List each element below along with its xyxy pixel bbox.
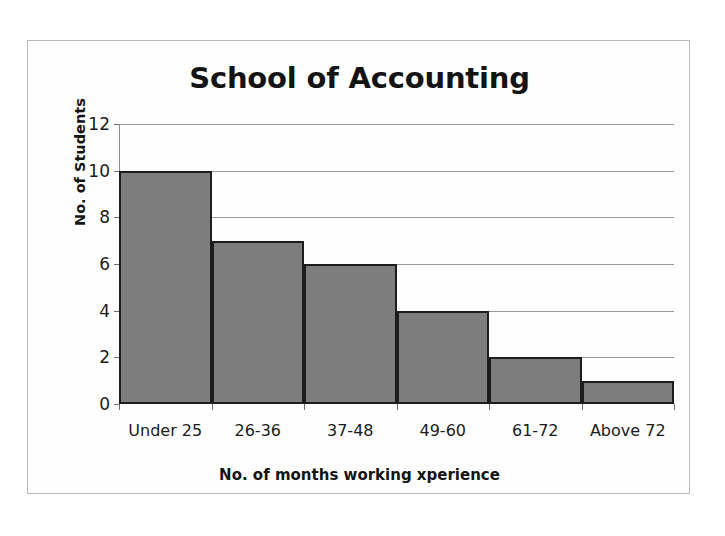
y-tick-label: 12 — [88, 114, 110, 134]
y-tick-label: 8 — [99, 207, 110, 227]
chart-title: School of Accounting — [28, 61, 691, 95]
x-tick-mark — [582, 404, 583, 410]
y-tick-label: 6 — [99, 254, 110, 274]
chart-frame: School of Accounting 024681012 Under 252… — [27, 40, 690, 494]
bars-group — [119, 124, 674, 404]
x-category-label: 37-48 — [327, 421, 374, 440]
plot-area: 024681012 Under 2526-3637-4849-6061-72Ab… — [119, 124, 674, 404]
bar — [397, 311, 490, 404]
x-tick-mark — [304, 404, 305, 410]
bar — [119, 171, 212, 404]
bar — [212, 241, 305, 404]
x-tick-mark — [212, 404, 213, 410]
y-tick-label: 4 — [99, 301, 110, 321]
x-tick-mark — [674, 404, 675, 410]
bar — [489, 357, 582, 404]
x-tick-mark — [489, 404, 490, 410]
x-category-label: 61-72 — [512, 421, 559, 440]
x-category-label: Above 72 — [590, 421, 666, 440]
x-category-label: Under 25 — [128, 421, 202, 440]
bar — [582, 381, 675, 404]
x-tick-mark — [397, 404, 398, 410]
y-tick-label: 2 — [99, 347, 110, 367]
x-category-label: 26-36 — [235, 421, 282, 440]
x-category-label: 49-60 — [420, 421, 467, 440]
x-tick-mark — [119, 404, 120, 410]
bar — [304, 264, 397, 404]
x-axis-title: No. of months working xperience — [28, 466, 691, 484]
y-tick-label: 10 — [88, 161, 110, 181]
y-tick-label: 0 — [99, 394, 110, 414]
y-axis-title: No. of Students — [72, 98, 88, 226]
